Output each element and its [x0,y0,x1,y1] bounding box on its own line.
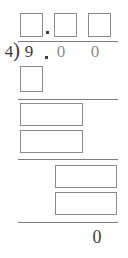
dividend-digit-9: 9 [22,43,36,60]
remainder-digit: 0 [89,228,105,246]
dividend-digit-tenths: 0 [54,43,68,60]
quotient-answer-box-3[interactable] [88,13,111,37]
quotient-decimal-point [46,31,49,34]
dividend-digit-hundredths: 0 [88,43,102,60]
division-bar [18,41,118,42]
step2-subtraction-rule [18,159,118,160]
step1-subtraction-rule [18,99,118,100]
long-division-worksheet: 4 ) 9 0 0 0 [0,0,128,258]
step1-answer-box-1[interactable] [20,66,43,92]
step3-answer-box-2[interactable] [55,192,117,215]
step2-answer-box-1[interactable] [20,103,83,126]
division-bracket-icon: ) [13,40,20,61]
step2-answer-box-2[interactable] [20,130,83,153]
dividend-decimal-point [45,56,48,59]
quotient-answer-box-2[interactable] [54,13,77,37]
step3-subtraction-rule [18,222,118,223]
step3-answer-box-1[interactable] [55,165,117,188]
quotient-answer-box-1[interactable] [20,13,43,37]
